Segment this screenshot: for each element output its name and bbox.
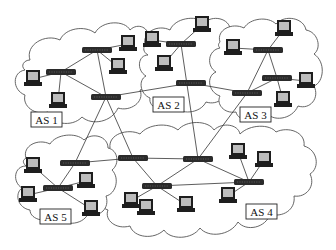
computer-icon — [119, 35, 137, 51]
computer-icon — [297, 72, 315, 88]
router-icon — [142, 183, 172, 189]
computer-icon — [49, 92, 67, 108]
router-icon — [166, 41, 196, 47]
computer-icon — [155, 55, 173, 71]
router-icon — [234, 179, 264, 185]
computer-icon — [77, 172, 95, 188]
computer-icon — [109, 58, 127, 74]
svg-text:AS 1: AS 1 — [35, 114, 57, 126]
computer-icon — [143, 31, 161, 47]
computer-icon — [219, 187, 237, 203]
computer-icon — [82, 200, 100, 216]
computer-icon — [193, 16, 211, 32]
router-icon — [60, 160, 90, 166]
network-diagram: AS 1AS 2AS 3AS 4AS 5 — [0, 0, 336, 250]
router-icon — [183, 156, 213, 162]
computer-icon — [24, 70, 42, 86]
computer-icon — [255, 151, 273, 167]
svg-text:AS 2: AS 2 — [157, 99, 179, 111]
svg-text:AS 4: AS 4 — [250, 206, 273, 218]
computer-icon — [274, 91, 292, 107]
router-icon — [262, 75, 292, 81]
computer-icon — [229, 143, 247, 159]
as5-label: AS 5 — [40, 209, 71, 224]
as4-cloud — [98, 123, 316, 238]
router-icon — [46, 69, 76, 75]
computer-icon — [122, 192, 140, 208]
router-icon — [253, 47, 283, 53]
computer-icon — [24, 157, 42, 173]
computer-icon — [19, 186, 37, 202]
svg-text:AS 5: AS 5 — [44, 211, 67, 223]
computer-icon — [177, 196, 195, 212]
as3-cloud — [210, 18, 323, 120]
as2-label: AS 2 — [153, 97, 184, 112]
svg-text:AS 3: AS 3 — [244, 109, 267, 121]
router-icon — [82, 47, 112, 53]
router-icon — [43, 185, 73, 191]
router-icon — [91, 94, 121, 100]
router-icon — [118, 155, 148, 161]
as4-label: AS 4 — [246, 204, 277, 219]
as1-label: AS 1 — [31, 112, 62, 127]
computer-icon — [224, 39, 242, 55]
router-icon — [232, 90, 262, 96]
as3-label: AS 3 — [240, 107, 271, 122]
computer-icon — [275, 20, 293, 36]
router-icon — [176, 80, 206, 86]
